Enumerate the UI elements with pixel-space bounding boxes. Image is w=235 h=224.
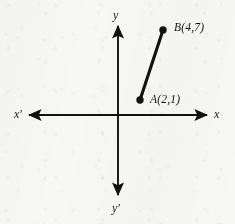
point-a-dot xyxy=(136,96,143,103)
y-negative-axis-label: y′ xyxy=(112,202,120,214)
x-negative-axis-label: x′ xyxy=(14,108,22,120)
segment-ab xyxy=(140,30,163,100)
point-a-label: A(2,1) xyxy=(150,94,180,106)
y-positive-axis-label: y xyxy=(113,9,118,21)
point-b-label: B(4,7) xyxy=(174,22,204,34)
axes-and-segment-graphic xyxy=(0,0,235,224)
point-b-dot xyxy=(159,26,166,33)
coordinate-geometry-figure: x′ x y y′ A(2,1) B(4,7) xyxy=(0,0,235,224)
x-positive-axis-label: x xyxy=(214,108,219,120)
